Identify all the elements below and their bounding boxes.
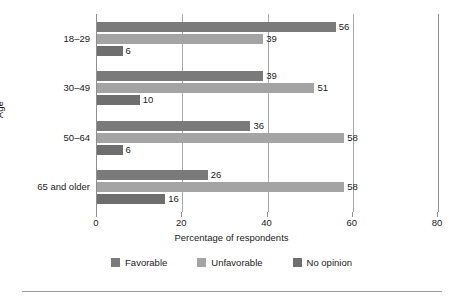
bar-value-label: 51 xyxy=(314,84,328,94)
legend-label: Favorable xyxy=(125,258,167,268)
legend-label: No opinion xyxy=(307,258,352,268)
bar-row[interactable]: 58 xyxy=(97,133,438,143)
bar-value-label: 10 xyxy=(140,96,154,106)
bar-value-label: 58 xyxy=(344,133,358,143)
x-tick-label: 0 xyxy=(93,218,98,228)
bar-favorable[interactable] xyxy=(97,170,208,180)
bar-group: 265816 xyxy=(97,170,438,204)
bar-group: 395110 xyxy=(97,71,438,105)
category-axis-labels: 18–2930–4950–6465 and older xyxy=(0,14,90,212)
y-axis-title: Age xyxy=(0,101,4,118)
legend-swatch-icon xyxy=(293,258,302,267)
x-tick-label: 40 xyxy=(261,218,272,228)
bar-unfavorable[interactable] xyxy=(97,34,263,44)
bar-group: 36586 xyxy=(97,121,438,155)
legend-swatch-icon xyxy=(111,258,120,267)
bar-row[interactable]: 6 xyxy=(97,145,438,155)
x-axis-title: Percentage of respondents xyxy=(0,233,463,243)
bar-row[interactable]: 16 xyxy=(97,194,438,204)
bar-value-label: 58 xyxy=(344,183,358,193)
bar-group: 56396 xyxy=(97,22,438,56)
bar-row[interactable]: 26 xyxy=(97,170,438,180)
bar-row[interactable]: 6 xyxy=(97,46,438,56)
bar-value-label: 39 xyxy=(263,72,277,82)
bar-row[interactable]: 51 xyxy=(97,83,438,93)
plot-area: 5639639511036586265816 xyxy=(96,14,439,212)
bar-value-label: 56 xyxy=(336,22,350,32)
legend-swatch-icon xyxy=(197,258,206,267)
bar-row[interactable]: 36 xyxy=(97,121,438,131)
bar-row[interactable]: 10 xyxy=(97,95,438,105)
bar-row[interactable]: 39 xyxy=(97,71,438,81)
bar-favorable[interactable] xyxy=(97,121,250,131)
legend-item[interactable]: No opinion xyxy=(293,258,352,268)
bar-row[interactable]: 58 xyxy=(97,182,438,192)
category-label: 50–64 xyxy=(4,133,90,143)
bar-row[interactable]: 39 xyxy=(97,34,438,44)
x-tick-label: 20 xyxy=(176,218,187,228)
bar-unfavorable[interactable] xyxy=(97,83,314,93)
bar-unfavorable[interactable] xyxy=(97,182,344,192)
bar-no-opinion[interactable] xyxy=(97,46,123,56)
bar-value-label: 6 xyxy=(123,145,131,155)
bar-unfavorable[interactable] xyxy=(97,133,344,143)
bar-no-opinion[interactable] xyxy=(97,95,140,105)
bar-row[interactable]: 56 xyxy=(97,22,438,32)
bar-value-label: 26 xyxy=(208,171,222,181)
category-label: 18–29 xyxy=(4,34,90,44)
legend-item[interactable]: Favorable xyxy=(111,258,167,268)
bar-chart-figure: 18–2930–4950–6465 and older Age 56396395… xyxy=(0,0,463,301)
bar-value-label: 39 xyxy=(263,34,277,44)
bar-favorable[interactable] xyxy=(97,22,336,32)
category-label: 65 and older xyxy=(4,182,90,192)
bar-value-label: 6 xyxy=(123,46,131,56)
bar-favorable[interactable] xyxy=(97,71,263,81)
bar-no-opinion[interactable] xyxy=(97,194,165,204)
bottom-divider xyxy=(22,291,442,292)
bar-value-label: 16 xyxy=(165,195,179,205)
legend-label: Unfavorable xyxy=(211,258,262,268)
legend-item[interactable]: Unfavorable xyxy=(197,258,262,268)
category-label: 30–49 xyxy=(4,83,90,93)
x-axis: 020406080 xyxy=(96,212,437,213)
bar-no-opinion[interactable] xyxy=(97,145,123,155)
x-tick-label: 60 xyxy=(346,218,357,228)
bar-value-label: 36 xyxy=(250,121,264,131)
x-tick-label: 80 xyxy=(432,218,443,228)
chart-legend: FavorableUnfavorableNo opinion xyxy=(0,258,463,268)
